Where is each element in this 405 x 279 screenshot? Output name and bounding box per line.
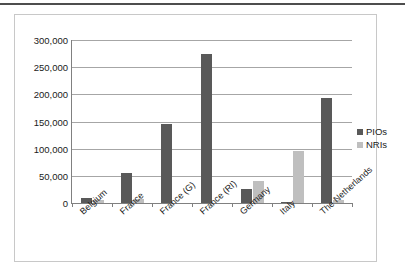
legend-swatch-icon: [357, 142, 363, 148]
gridline: [72, 40, 352, 41]
x-axis-labels: BelgiumFranceFrance (G)France (RI)German…: [72, 205, 372, 275]
y-tick-label: 0: [16, 199, 68, 208]
y-tick-label: 200,000: [16, 90, 68, 99]
legend-label: NRIs: [366, 140, 387, 150]
legend-swatch-icon: [357, 129, 363, 135]
gridline: [72, 67, 352, 68]
chart-frame: 050,000100,000150,000200,000250,000300,0…: [14, 14, 377, 262]
y-tick-label: 150,000: [16, 117, 68, 126]
chart-legend: PIOsNRIs: [357, 125, 391, 151]
bar-pios-3: [201, 54, 212, 203]
y-axis-labels: 050,000100,000150,000200,000250,000300,0…: [15, 40, 68, 203]
y-tick-label: 50,000: [16, 171, 68, 180]
bar-pios-6: [321, 98, 332, 203]
top-horizontal-rule: [0, 3, 405, 5]
y-tick-label: 300,000: [16, 36, 68, 45]
y-tick-label: 250,000: [16, 63, 68, 72]
bar-pios-2: [161, 124, 172, 203]
legend-item-nris[interactable]: NRIs: [357, 138, 391, 151]
gridline: [72, 149, 352, 150]
gridline: [72, 122, 352, 123]
legend-label: PIOs: [366, 127, 387, 137]
gridline: [72, 176, 352, 177]
plot-area: [72, 40, 352, 203]
legend-item-pios[interactable]: PIOs: [357, 125, 391, 138]
bar-nris-5: [293, 151, 304, 203]
y-tick-label: 100,000: [16, 144, 68, 153]
gridline: [72, 94, 352, 95]
